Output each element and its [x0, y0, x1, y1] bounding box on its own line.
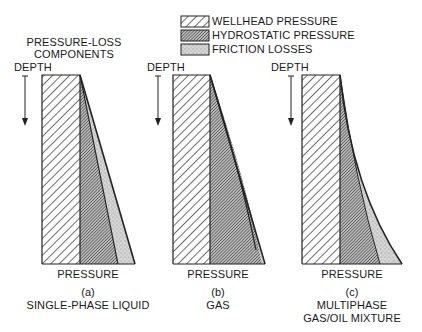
y-axis-label-a: DEPTH — [14, 61, 52, 74]
panel-letter-c: (c) — [345, 286, 358, 299]
legend-label-wellhead: WELLHEAD PRESSURE — [212, 15, 338, 28]
y-axis-label-b: DEPTH — [147, 61, 185, 74]
x-axis-label-c: PRESSURE — [321, 268, 382, 281]
panel-a-plot — [22, 75, 135, 264]
legend-swatch-hydrostatic — [181, 30, 209, 41]
legend-label-friction: FRICTION LOSSES — [212, 43, 313, 56]
wellhead-region-a — [42, 75, 80, 264]
legend-label-hydrostatic: HYDROSTATIC PRESSURE — [212, 29, 355, 42]
panel-caption-c-line2: GAS/OIL MIXTURE — [303, 312, 401, 325]
x-axis-label-b: PRESSURE — [187, 268, 248, 281]
legend-swatch-friction — [181, 44, 209, 55]
legend-swatch-wellhead — [181, 16, 209, 27]
panel-b-plot — [155, 75, 265, 264]
panel-caption-a: SINGLE-PHASE LIQUID — [27, 299, 150, 312]
x-axis-label-a: PRESSURE — [57, 268, 118, 281]
panel-letter-b: (b) — [211, 286, 225, 299]
panel-c-plot — [288, 75, 402, 264]
panel-letter-a: (a) — [81, 286, 95, 299]
wellhead-region-c — [302, 75, 340, 264]
panel-caption-c-line1: MULTIPHASE — [317, 299, 387, 312]
wellhead-region-b — [173, 75, 210, 264]
panel-caption-b: GAS — [206, 299, 230, 312]
diagram-title-line2: COMPONENTS — [34, 48, 114, 61]
legend-swatches — [181, 16, 209, 55]
y-axis-label-c: DEPTH — [271, 61, 309, 74]
